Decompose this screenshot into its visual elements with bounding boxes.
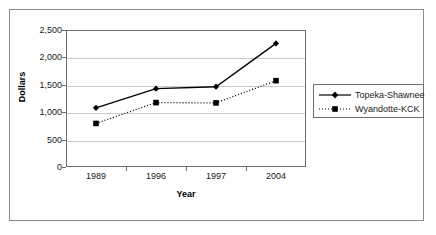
series-2 — [93, 78, 279, 126]
y-axis-tick-mark — [62, 85, 66, 86]
x-axis-tick-labels: 1989199619972004 — [66, 171, 306, 185]
y-axis-tick-mark — [62, 57, 66, 58]
data-point-diamond-icon — [93, 105, 99, 111]
x-axis-title: Year — [66, 189, 306, 199]
x-axis-tick-label: 1996 — [133, 171, 179, 181]
y-axis-tick-label: 1,000 — [18, 107, 62, 117]
y-axis-tick-labels: 05001,0001,5002,0002,500 — [14, 30, 62, 167]
legend-item-wyandotte-kck[interactable]: Wyandotte-KCK — [318, 102, 419, 115]
y-axis-tick-mark — [62, 167, 66, 168]
legend-item-topeka-shawnee[interactable]: Topeka-Shawnee — [318, 88, 419, 101]
x-axis-tick-label: 2004 — [253, 171, 299, 181]
x-axis-tick-mark — [126, 167, 127, 171]
chart-figure: Dollars 05001,0001,5002,0002,500 1989199… — [0, 0, 436, 235]
y-axis-tick-label: 500 — [18, 135, 62, 145]
x-axis-tick-label: 1989 — [73, 171, 119, 181]
series-line — [96, 43, 276, 107]
legend-label: Topeka-Shawnee — [355, 89, 425, 101]
y-axis-tick-mark — [62, 30, 66, 31]
y-axis-tick-label: 0 — [18, 162, 62, 172]
legend-sample-solid-diamond-icon — [318, 89, 352, 101]
y-axis-tick-label: 1,500 — [18, 80, 62, 90]
x-axis-tick-mark — [186, 167, 187, 171]
x-axis-tick-label: 1997 — [193, 171, 239, 181]
data-point-square-icon — [273, 78, 279, 84]
y-axis-tick-mark — [62, 140, 66, 141]
data-point-square-icon — [93, 121, 99, 127]
y-axis-tick-label: 2,500 — [18, 25, 62, 35]
data-point-square-icon — [213, 100, 219, 106]
y-axis-tick-label: 2,000 — [18, 52, 62, 62]
series-1 — [93, 40, 279, 111]
legend-label: Wyandotte-KCK — [355, 103, 419, 115]
legend-sample-dotted-square-icon — [318, 103, 352, 115]
data-point-square-icon — [153, 100, 159, 106]
data-point-diamond-icon — [153, 86, 159, 92]
y-axis-tick-mark — [62, 112, 66, 113]
chart-legend: Topeka-Shawnee Wyandotte-KCK — [313, 84, 424, 118]
series-layer — [66, 30, 306, 167]
x-axis-tick-mark — [246, 167, 247, 171]
